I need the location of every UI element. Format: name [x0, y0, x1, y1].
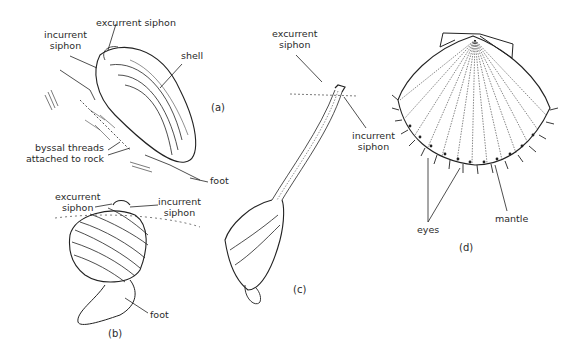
label-a-incurrent-siphon: incurrent siphon	[44, 30, 87, 51]
label-a-shell: shell	[181, 51, 203, 62]
label-a-excurrent-siphon: excurrent siphon	[96, 18, 176, 29]
label-c-incurrent-line1: incurrent	[352, 131, 395, 142]
label-a-foot: foot	[210, 176, 229, 187]
panel-label-a: (a)	[211, 102, 225, 113]
label-c-excurrent-line2: siphon	[272, 40, 317, 51]
label-b-excurrent-line1: excurrent	[55, 192, 100, 203]
label-c-incurrent-line2: siphon	[352, 142, 395, 153]
clam-siphon-drawing	[225, 85, 358, 304]
label-d-mantle: mantle	[495, 214, 528, 225]
label-b-incurrent-siphon: incurrent siphon	[158, 197, 201, 218]
bivalve-illustration	[0, 0, 575, 356]
label-b-incurrent-line2: siphon	[158, 208, 201, 219]
label-b-excurrent-siphon: excurrent siphon	[55, 192, 100, 213]
panel-label-b: (b)	[108, 328, 122, 339]
label-b-excurrent-line2: siphon	[55, 203, 100, 214]
panel-label-c: (c)	[293, 284, 306, 295]
label-c-excurrent-siphon: excurrent siphon	[272, 29, 317, 50]
label-a-byssal-threads: byssal threads attached to rock	[26, 143, 104, 164]
cockle-drawing	[55, 201, 200, 325]
label-c-incurrent-siphon: incurrent siphon	[352, 131, 395, 152]
label-c-excurrent-line1: excurrent	[272, 29, 317, 40]
label-b-foot: foot	[150, 310, 169, 321]
scallop-drawing	[392, 33, 558, 174]
panel-label-d: (d)	[459, 242, 473, 253]
label-b-incurrent-line1: incurrent	[158, 197, 201, 208]
label-a-incurrent-line1: incurrent	[44, 30, 87, 41]
label-a-incurrent-line2: siphon	[44, 41, 87, 52]
label-a-byssal-line1: byssal threads	[26, 143, 104, 154]
label-d-eyes: eyes	[417, 225, 439, 236]
label-a-byssal-line2: attached to rock	[26, 154, 104, 165]
